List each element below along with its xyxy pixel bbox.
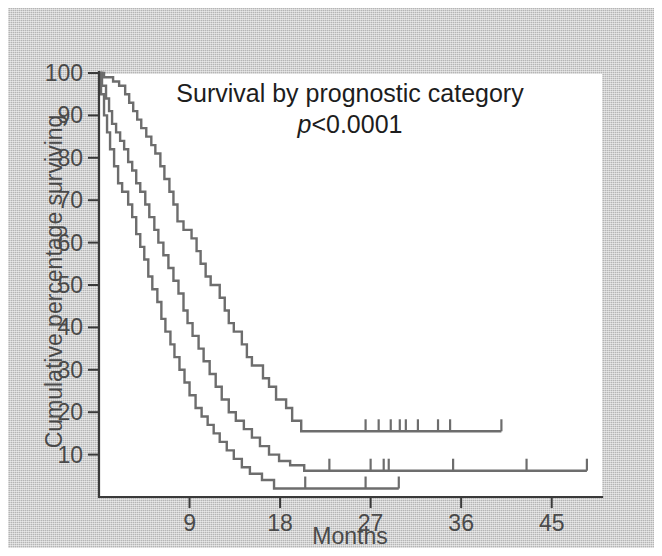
survival-curve <box>99 73 587 471</box>
y-tick-label: 100 <box>45 60 83 86</box>
x-tick-label: 36 <box>448 510 474 536</box>
x-tick-label: 9 <box>183 510 196 536</box>
y-tick-label: 20 <box>57 399 83 425</box>
chart-svg: 102030405060708090100918273645 <box>0 0 662 556</box>
y-tick-label: 30 <box>57 357 83 383</box>
y-tick-label: 60 <box>57 230 83 256</box>
x-tick-label: 27 <box>358 510 384 536</box>
survival-curve <box>99 73 399 489</box>
y-tick-label: 50 <box>57 272 83 298</box>
x-tick-label: 45 <box>539 510 565 536</box>
x-tick-label: 18 <box>267 510 293 536</box>
censoring-marks-group <box>305 419 587 488</box>
y-tick-label: 10 <box>57 442 83 468</box>
figure-container: Cumulative percentage surviving Months S… <box>0 0 662 556</box>
axis-lines <box>99 72 602 497</box>
y-tick-label: 90 <box>57 102 83 128</box>
survival-curve <box>99 73 501 431</box>
survival-curves-group <box>99 73 587 489</box>
y-tick-label: 40 <box>57 314 83 340</box>
y-tick-label: 70 <box>57 187 83 213</box>
y-tick-label: 80 <box>57 145 83 171</box>
axes-group <box>88 72 602 508</box>
